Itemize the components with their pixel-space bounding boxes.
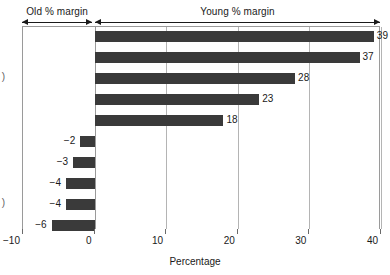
- bar: [95, 52, 360, 63]
- bar-value-label: 37: [363, 51, 374, 62]
- young-margin-range-arrow: [95, 22, 380, 23]
- x-tick-label: 20: [224, 235, 235, 246]
- young-margin-range-label: Young % margin: [200, 6, 274, 17]
- bar: [52, 220, 95, 231]
- x-axis-title: Percentage: [0, 256, 390, 267]
- category-label: ): [2, 71, 5, 82]
- bar: [95, 31, 374, 42]
- bar: [95, 94, 260, 105]
- x-tick-label: 30: [295, 235, 306, 246]
- bar: [95, 73, 295, 84]
- x-tick-label: 10: [152, 235, 163, 246]
- bar: [73, 157, 94, 168]
- x-tick-label: 0: [86, 235, 92, 246]
- bar: [66, 199, 95, 210]
- bar-chart: Old % margin Young % margin 3937282318−2…: [0, 0, 390, 275]
- bar-value-label: −4: [50, 198, 61, 209]
- bar: [66, 178, 95, 189]
- bar-value-label: −4: [50, 177, 61, 188]
- category-label: ): [2, 197, 5, 208]
- gridline-40: [381, 27, 382, 229]
- plot-area: [22, 26, 380, 229]
- x-tick-mark: [380, 229, 381, 234]
- old-margin-range-arrow: [22, 22, 92, 23]
- x-tick-label: 40: [367, 235, 378, 246]
- bar: [95, 115, 224, 126]
- bar-value-label: −3: [57, 156, 68, 167]
- bar-value-label: 39: [377, 30, 388, 41]
- x-tick-mark: [22, 229, 23, 234]
- bar-value-label: 23: [262, 93, 273, 104]
- bar-value-label: −6: [35, 219, 46, 230]
- bar-value-label: 28: [298, 72, 309, 83]
- x-tick-mark: [308, 229, 309, 234]
- x-tick-label: −10: [3, 235, 20, 246]
- x-tick-mark: [237, 229, 238, 234]
- x-tick-mark: [94, 229, 95, 234]
- bar: [80, 136, 94, 147]
- x-tick-mark: [165, 229, 166, 234]
- old-margin-range-label: Old % margin: [26, 6, 88, 17]
- bar-value-label: 18: [226, 114, 237, 125]
- bar-value-label: −2: [64, 135, 75, 146]
